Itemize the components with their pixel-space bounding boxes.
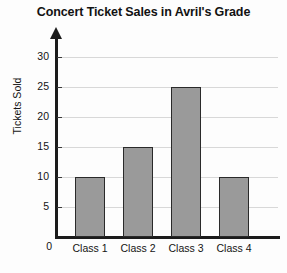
tick-mark	[57, 147, 62, 148]
tick-mark	[57, 87, 62, 88]
x-tick-label-4: Class 4	[204, 242, 264, 254]
y-tick-label-20: 20	[9, 111, 49, 122]
chart-title: Concert Ticket Sales in Avril's Grade	[0, 5, 287, 19]
gridline	[57, 57, 278, 58]
gridline	[57, 117, 278, 118]
y-tick-label-30: 30	[9, 51, 49, 62]
tick-mark	[57, 207, 62, 208]
gridline	[57, 147, 278, 148]
y-axis-arrow-icon	[50, 27, 62, 39]
bar-class-2	[123, 147, 153, 237]
y-tick-label-25: 25	[9, 81, 49, 92]
bar-class-1	[75, 177, 105, 237]
y-tick-label-15: 15	[9, 141, 49, 152]
plot-area	[57, 57, 278, 237]
bar-chart: Concert Ticket Sales in Avril's Grade Ti…	[0, 0, 287, 273]
y-tick-label-10: 10	[9, 171, 49, 182]
tick-mark	[57, 177, 62, 178]
bar-class-3	[171, 87, 201, 237]
tick-mark	[57, 57, 62, 58]
y-tick-label-5: 5	[9, 201, 49, 212]
bar-class-4	[219, 177, 249, 237]
gridline	[57, 87, 278, 88]
tick-mark	[57, 117, 62, 118]
y-tick-label-0: 0	[36, 240, 52, 252]
